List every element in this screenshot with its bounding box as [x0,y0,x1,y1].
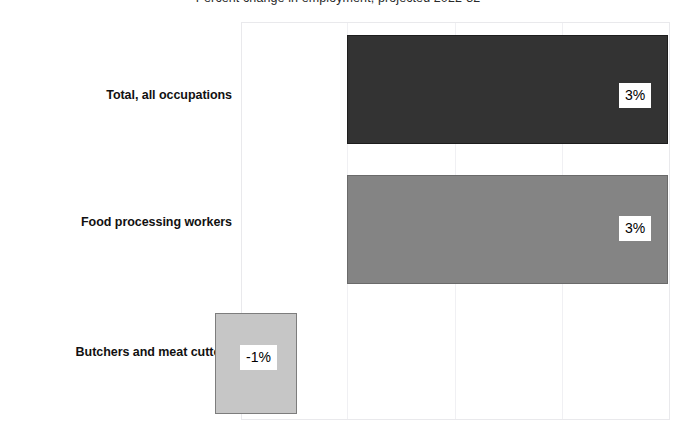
value-label-total-all-occupations: 3% [619,83,651,108]
value-label-butchers-and-meat-cutters: -1% [240,345,277,370]
bar-chart: Percent change in employment, projected … [0,0,676,438]
category-label-food-processing-workers: Food processing workers [0,215,232,229]
category-label-total-all-occupations: Total, all occupations [0,88,232,102]
value-label-food-processing-workers: 3% [619,216,651,241]
chart-title: Percent change in employment, projected … [0,0,676,5]
category-label-butchers-and-meat-cutters: Butchers and meat cutters [0,345,232,359]
